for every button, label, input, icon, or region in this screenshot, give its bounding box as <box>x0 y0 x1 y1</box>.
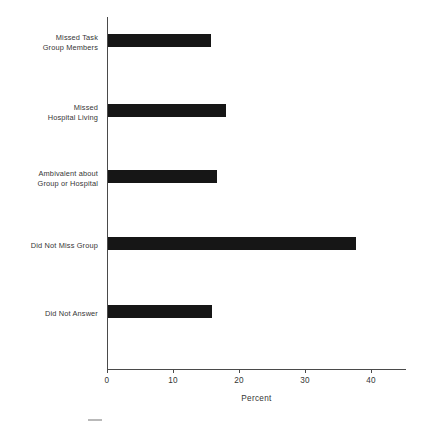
x-axis-tick <box>371 369 372 373</box>
x-axis-tick-label: 0 <box>92 376 122 385</box>
bar-category-label: Missed Hospital Living <box>0 103 98 122</box>
bar-category-label: Ambivalent about Group or Hospital <box>0 169 98 188</box>
x-axis-tick-label: 30 <box>290 376 320 385</box>
x-axis-tick-label: 10 <box>158 376 188 385</box>
x-axis-tick <box>239 369 240 373</box>
x-axis-title: Percent <box>107 394 406 403</box>
x-axis-tick-label: 40 <box>356 376 386 385</box>
x-axis-tick <box>173 369 174 373</box>
plot-area: Missed Task Group Members Missed Hospita… <box>0 0 428 426</box>
bar-rect <box>108 170 217 183</box>
x-axis-tick-label: 20 <box>224 376 254 385</box>
scan-artifact <box>88 419 102 421</box>
bar-category-label: Did Not Answer <box>0 309 98 319</box>
bar-category-label: Did Not Miss Group <box>0 241 98 251</box>
bar-category-label: Missed Task Group Members <box>0 33 98 52</box>
bar-rect <box>108 237 356 250</box>
x-axis-tick <box>107 369 108 373</box>
bar-rect <box>108 104 226 117</box>
x-axis-tick <box>305 369 306 373</box>
horizontal-bar-chart: Missed Task Group Members Missed Hospita… <box>0 0 428 426</box>
x-axis-line <box>107 369 406 370</box>
bar-rect <box>108 34 211 47</box>
bar-rect <box>108 305 212 318</box>
